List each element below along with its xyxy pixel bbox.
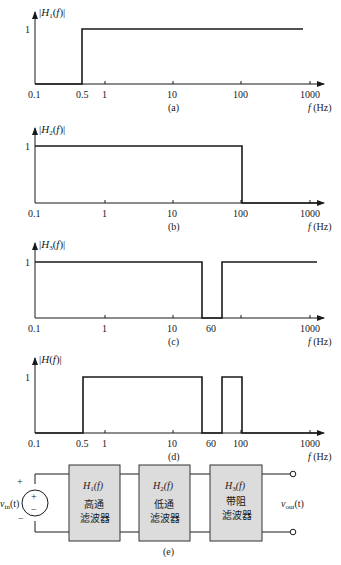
caption: (e) [163, 546, 174, 558]
svg-text:低通: 低通 [154, 498, 174, 510]
tick-label: 100 [233, 208, 248, 219]
source-plus-sign: + [17, 476, 23, 487]
caption: (a) [168, 102, 179, 114]
tick-label: 0.1 [28, 323, 41, 334]
y-axis-label: |H(f)| [39, 353, 62, 366]
chart-a: |H1(f)| 1 0.1 0.5 1 10 100 1000 f (Hz) (… [25, 6, 332, 114]
caption: (b) [168, 221, 180, 233]
response-curve [35, 146, 322, 203]
voltage-source: + − [22, 490, 48, 516]
output-label: vout(t) [281, 498, 304, 511]
response-curve [35, 29, 303, 84]
tick-label: 1000 [300, 89, 320, 100]
tick-label: 10 [167, 89, 177, 100]
tick-label: 1000 [300, 323, 320, 334]
circuit-diagram: + − + − vin(t) H1(f) 高通 滤波器 H2(f) 低通 滤波器… [0, 465, 304, 558]
output-terminal-top [290, 471, 296, 477]
chart-d: |H(f)| 1 0.1 0.5 1 10 60 100 1000 f (Hz)… [25, 353, 332, 463]
tick-label: 0.1 [28, 208, 41, 219]
x-axis-label: f (Hz) [308, 102, 332, 114]
source-minus-sign: − [18, 513, 24, 524]
svg-text:−: − [31, 504, 37, 515]
x-axis-label: f (Hz) [308, 221, 332, 233]
x-axis-label: f (Hz) [308, 336, 332, 348]
tick-label: 0.5 [76, 438, 89, 449]
tick-label: 1 [102, 89, 107, 100]
response-curve [35, 262, 317, 318]
svg-text:高通: 高通 [84, 498, 104, 510]
x-axis-label: f (Hz) [308, 451, 332, 463]
tick-label: 1000 [300, 438, 320, 449]
svg-text:带阻: 带阻 [226, 496, 246, 507]
filter-block-highpass: H1(f) 高通 滤波器 [69, 465, 120, 541]
level-label: 1 [25, 141, 30, 152]
tick-label: 100 [233, 89, 248, 100]
level-label: 1 [25, 24, 30, 35]
svg-text:滤波器: 滤波器 [222, 509, 252, 521]
tick-label: 10 [167, 323, 177, 334]
tick-label: 1 [102, 323, 107, 334]
caption: (d) [168, 451, 180, 463]
tick-label: 0.1 [28, 438, 41, 449]
figure: |H1(f)| 1 0.1 0.5 1 10 100 1000 f (Hz) (… [0, 0, 341, 565]
svg-text:滤波器: 滤波器 [80, 512, 110, 524]
tick-label: 100 [233, 438, 248, 449]
level-label: 1 [25, 372, 30, 383]
y-axis-label: |H2(f)| [39, 123, 65, 137]
level-label: 1 [25, 257, 30, 268]
y-axis-label: |H3(f)| [39, 238, 65, 252]
filter-block-bandstop: H3(f) 带阻 滤波器 [210, 465, 262, 541]
tick-label: 60 [206, 438, 216, 449]
tick-label: 1 [102, 208, 107, 219]
tick-label: 10 [167, 438, 177, 449]
chart-c: |H3(f)| 1 0.1 1 10 60 1000 f (Hz) (c) [25, 238, 332, 348]
tick-label: 1 [102, 438, 107, 449]
tick-label: 10 [167, 208, 177, 219]
tick-label: 0.5 [76, 89, 89, 100]
output-terminal-bottom [290, 529, 296, 535]
filter-block-lowpass: H2(f) 低通 滤波器 [139, 465, 190, 541]
source-label: vin(t) [0, 498, 19, 511]
caption: (c) [168, 336, 179, 348]
svg-text:+: + [31, 491, 37, 502]
tick-label: 0.1 [28, 89, 41, 100]
tick-label: 60 [206, 323, 216, 334]
chart-b: |H2(f)| 1 0.1 1 10 100 1000 f (Hz) (b) [25, 123, 332, 233]
y-axis-label: |H1(f)| [39, 6, 65, 20]
tick-label: 1000 [300, 208, 320, 219]
svg-text:滤波器: 滤波器 [150, 512, 180, 524]
response-curve [35, 377, 322, 433]
